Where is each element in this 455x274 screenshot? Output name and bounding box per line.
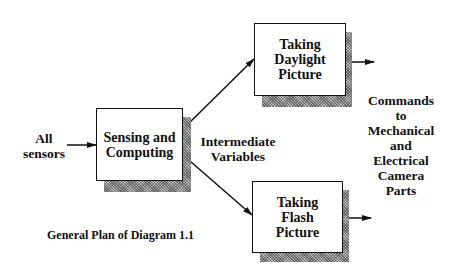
sensing-computing-box: Sensing and Computing xyxy=(96,108,183,181)
arrow-to-flash xyxy=(183,155,252,215)
diagram-caption: General Plan of Diagram 1.1 xyxy=(47,228,194,243)
output-commands-label: Commands to Mechanical and Electrical Ca… xyxy=(355,93,447,198)
flash-picture-box: Taking Flash Picture xyxy=(252,181,343,253)
label-line: and xyxy=(355,138,447,153)
label-line: Mechanical xyxy=(355,123,447,138)
box-text: Sensing and xyxy=(104,130,176,145)
box-text: Taking xyxy=(276,195,319,210)
box-text: Daylight xyxy=(274,52,325,67)
label-line: Camera xyxy=(355,168,447,183)
input-label-line: sensors xyxy=(14,146,74,161)
box-text: Picture xyxy=(276,225,319,240)
input-label-line: All xyxy=(14,131,74,146)
label-line: Commands xyxy=(355,93,447,108)
intermediate-variables-label: Intermediate Variables xyxy=(188,134,288,164)
box-text: Flash xyxy=(276,210,319,225)
box-text: Taking xyxy=(274,37,325,52)
label-line: Variables xyxy=(188,149,288,164)
input-label: All sensors xyxy=(14,131,74,161)
box-text: Picture xyxy=(274,67,325,82)
arrow-to-daylight xyxy=(183,59,254,129)
label-line: to xyxy=(355,108,447,123)
box-text: Computing xyxy=(104,145,176,160)
label-line: Parts xyxy=(355,183,447,198)
label-line: Electrical xyxy=(355,153,447,168)
label-line: Intermediate xyxy=(188,134,288,149)
daylight-picture-box: Taking Daylight Picture xyxy=(254,23,346,96)
